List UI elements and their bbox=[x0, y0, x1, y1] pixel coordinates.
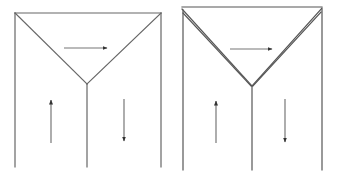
single-line-junction-diagram bbox=[15, 13, 161, 167]
left-diagonal-outer-line bbox=[182, 9, 252, 86]
double-line-junction-diagram bbox=[182, 7, 322, 170]
right-diagonal-outer-line bbox=[252, 8, 322, 86]
flow-junction-diagrams bbox=[0, 0, 338, 176]
diagram-stage bbox=[0, 0, 338, 176]
